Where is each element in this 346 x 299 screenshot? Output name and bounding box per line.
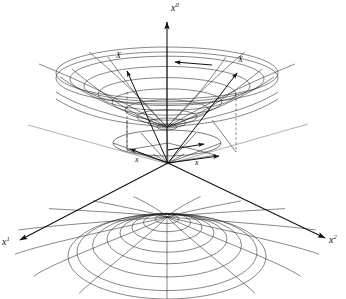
vector-label-upper-left: X bbox=[116, 52, 121, 60]
coordinate-axes bbox=[20, 22, 325, 240]
vector-label-lower-right: x bbox=[195, 159, 199, 167]
vector-upper-left-symbol: X bbox=[116, 51, 121, 60]
vector-label-upper-right: X bbox=[238, 56, 243, 64]
vector-label-lower-left: x bbox=[135, 156, 139, 164]
figure-canvas bbox=[0, 0, 346, 299]
lower-sheet-meridians bbox=[15, 197, 319, 299]
vector-upper-right-arrow bbox=[168, 73, 237, 163]
vector-bowl-ring-arrow bbox=[175, 62, 212, 65]
lower-hyperboloid-sheet bbox=[15, 197, 319, 299]
axis-label-x1: x1 bbox=[2, 236, 10, 247]
vector-cone-rim-arrow bbox=[168, 144, 204, 150]
axis-x0-sup: 0 bbox=[175, 1, 178, 8]
plane-guide-right bbox=[168, 124, 308, 164]
minkowski-hyperboloid-figure: x0 x1 x2 X X x x bbox=[0, 0, 346, 299]
vector-upper-right-symbol: X bbox=[238, 55, 243, 64]
axis-x2-line bbox=[168, 163, 325, 238]
axis-x1-line bbox=[20, 163, 168, 240]
axis-label-x0: x0 bbox=[171, 2, 179, 13]
axis-label-x2: x2 bbox=[329, 234, 337, 245]
axis-x1-sup: 1 bbox=[6, 235, 9, 242]
axis-x2-sup: 2 bbox=[333, 233, 336, 240]
vector-lower-right-symbol: x bbox=[195, 158, 199, 167]
vector-lower-left-symbol: x bbox=[135, 155, 139, 164]
